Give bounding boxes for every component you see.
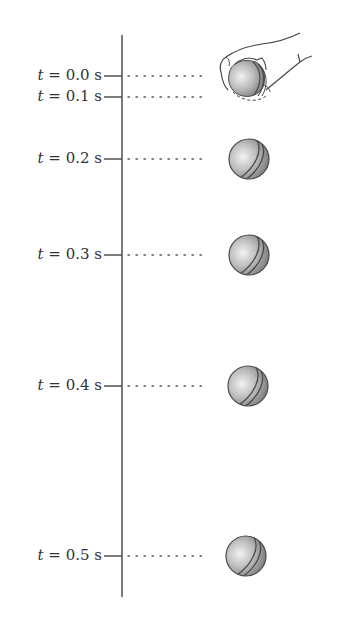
ball-t4-icon [228, 366, 268, 406]
time-value: 0.4 [66, 376, 90, 394]
time-label-t4: t = 0.4 s [2, 378, 102, 393]
free-fall-diagram: t = 0.0 s t = 0.1 s t = 0.2 s t = 0.3 s … [0, 0, 348, 625]
time-value: 0.3 [66, 245, 90, 263]
time-label-t2: t = 0.2 s [2, 151, 102, 166]
hand-with-ball-icon [220, 33, 312, 100]
ball-t5-icon [226, 536, 266, 576]
ball-t2-icon [229, 139, 269, 179]
time-value: 0.5 [66, 546, 90, 564]
time-label-t1: t = 0.1 s [2, 89, 102, 104]
ball-t3-icon [229, 235, 269, 275]
time-value: 0.1 [66, 87, 90, 105]
time-value: 0.2 [66, 149, 90, 167]
time-label-t3: t = 0.3 s [2, 247, 102, 262]
time-label-t0: t = 0.0 s [2, 68, 102, 83]
time-value: 0.0 [66, 66, 90, 84]
time-label-t5: t = 0.5 s [2, 548, 102, 563]
